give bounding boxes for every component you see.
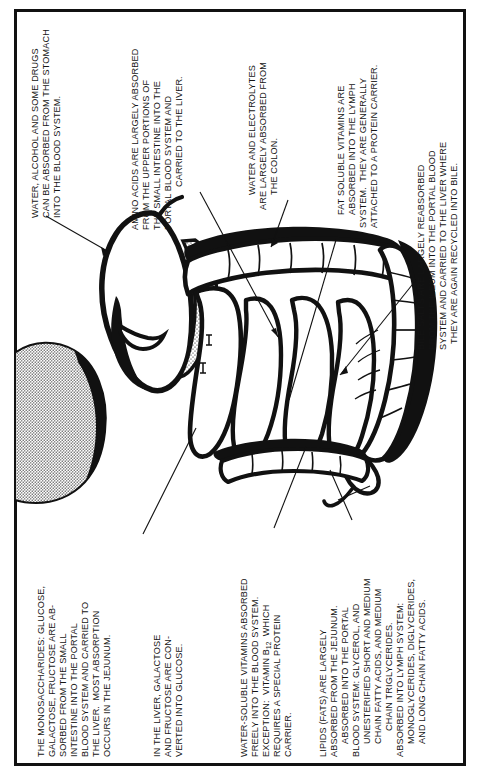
lipid-note-line-3: ABSORBED INTO THE PORTAL — [340, 607, 351, 744]
water-electrolyte-absorption-note-line-2: ARE LARGELY ABSORBED FROM — [258, 62, 269, 210]
water-soluble-vitamin-note-line-4: REQUIRES A SPECIAL PROTEIN — [272, 614, 283, 757]
lipid-note-line-7: CHAIN TRIGLYCERIDES. — [384, 622, 395, 731]
bile-salt-note-line-1: BILE SALTS ARE LARGELY REABSORBED — [416, 165, 427, 350]
amino-acid-absorption-note-line-5: CARRIED TO THE LIVER. — [174, 76, 185, 187]
lipid-note-line-1: LIPIDS (FATS) ARE LARGELY — [318, 629, 329, 757]
amino-acid-absorption-note-line-1: AMINO ACIDS ARE LARGELY ABSORBED — [130, 49, 141, 230]
water-soluble-vitamin-note-line-5: CARRIER. — [283, 712, 294, 757]
fat-soluble-vitamin-note-line-1: FAT SOLUBLE VITAMINS ARE — [336, 86, 347, 215]
appendix — [324, 489, 352, 506]
water-soluble-vitamin-note-line-2: FREELY INTO THE BLOOD SYSTEM. — [250, 597, 261, 757]
amino-acid-absorption-note-line-4: PORTAL BLOOD SYSTEM AND — [163, 96, 174, 230]
monosaccharide-note-line-3: SORBED FROM THE SMALL — [58, 633, 69, 757]
liver-conversion-note-line-1: IN THE LIVER, GALACTOSE — [152, 635, 163, 757]
vitamin-b12-subscript: 12 — [265, 641, 272, 648]
monosaccharide-note-line-4: INTESTINE INTO THE PORTAL — [69, 623, 80, 757]
monosaccharide-note-line-7: OCCURS IN THE JEJUNUM. — [102, 635, 113, 757]
lipid-note-line-8: ABSORBED INTO LYMPH SYSTEM: — [395, 603, 406, 757]
monosaccharide-note-line-6: THE LIVER. MOST ABSORPTION — [91, 611, 102, 757]
water-soluble-vitamin-note-line-1: WATER-SOLUBLE VITAMINS ABSORBED — [239, 578, 250, 757]
water-electrolyte-absorption-note-line-3: THE COLON. — [269, 138, 280, 195]
bile-salt-note-line-4: THEY ARE AGAIN RECYCLED INTO BILE. — [449, 163, 460, 344]
monosaccharide-note-line-5: BLOOD SYSTEM AND CARRIED TO — [80, 602, 91, 757]
water-electrolyte-absorption-note-line-1: WATER AND ELECTROLYTES — [247, 65, 258, 195]
monosaccharide-note-line-1: THE MONOSACCHARIDES: GLUCOSE, — [36, 586, 47, 757]
stomach-absorption-note-line-2: CAN BE ABSORBED FROM THE STOMACH — [41, 29, 52, 218]
liver-conversion-note-line-2: AND FRUCTOSE ARE CON- — [163, 636, 174, 757]
lipid-note-line-5: UNESTERIFIED SHORT AND MEDIUM — [362, 578, 373, 744]
lipid-note-line-9: MONOGLYCERIDES, DIGLYCERIDES, — [406, 579, 417, 744]
stomach-absorption-note-line-1: WATER, ALCOHOL AND SOME DRUGS — [30, 48, 41, 218]
anatomy-group — [15, 197, 437, 506]
ileum-loop — [329, 300, 374, 462]
stomach-absorption-note-line-3: INTO THE BLOOD SYSTEM. — [52, 96, 63, 218]
lipid-note-line-6: CHAIN FATTY ACIDS, AND MEDIUM — [373, 588, 384, 744]
lipid-note-line-2: ABSORBED FROM THE JEJUNUM. — [329, 605, 340, 757]
fat-soluble-vitamin-note-line-4: ATTACHED TO A PROTEIN CARRIER. — [369, 65, 380, 229]
water-soluble-vitamin-note-line-3a: EXCEPTION: VITAMIN B — [261, 649, 271, 757]
liver-conversion-note-line-3: VERTED INTO GLUCOSE. — [174, 644, 185, 757]
bile-salt-note-line-3: SYSTEM AND CARRIED TO THE LIVER WHERE — [438, 142, 449, 350]
terminal-ileum-outline — [221, 449, 368, 482]
amino-acid-absorption-note-line-3: THE SMALL INTESTINE INTO THE — [152, 81, 163, 230]
page-root: WATER, ALCOHOL AND SOME DRUGS CAN BE ABS… — [0, 0, 479, 776]
fat-soluble-vitamin-note-line-2: ABSORBED INTO THE LYMPH — [347, 83, 358, 215]
monosaccharide-note-line-2: GALACTOSE, FRUCTOSE ARE AB- — [47, 605, 58, 757]
fat-soluble-vitamin-note-line-3: SYSTEM. THEY ARE GENERALLY — [358, 78, 369, 228]
liver-stippled-mass — [15, 343, 106, 503]
bile-salt-note-line-2: FROM THE ILEUM INTO THE PORTAL BLOOD — [427, 150, 438, 350]
amino-acid-absorption-note-line-2: FROM THE UPPER PORTIONS OF — [141, 80, 152, 230]
water-soluble-vitamin-note-line-3b: WHICH — [261, 605, 271, 642]
lipid-note-line-10: AND LONG CHAIN FATTY ACIDS. — [417, 599, 428, 744]
lipid-note-line-4: BLOOD SYSTEM: GLYCEROL, AND — [351, 604, 362, 757]
